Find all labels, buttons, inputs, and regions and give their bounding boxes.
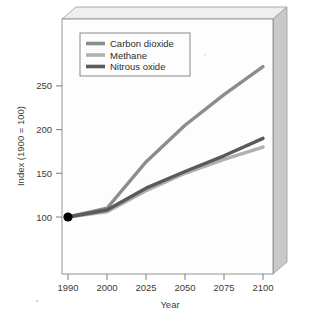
legend-label-carbon-dioxide: Carbon dioxide — [110, 38, 174, 49]
legend-label-nitrous-oxide: Nitrous oxide — [110, 61, 165, 72]
x-tick-label-2075: 2075 — [213, 282, 234, 293]
x-axis-ticks — [68, 274, 263, 280]
frame-top-bevel — [62, 7, 287, 19]
x-axis-title: Year — [160, 299, 179, 310]
y-tick-label-250: 250 — [36, 80, 52, 91]
y-axis-title: Index (1900 = 100) — [15, 106, 26, 186]
y-tick-label-100: 100 — [36, 212, 52, 223]
scan-speck — [36, 300, 38, 302]
origin-marker-dot — [63, 212, 72, 221]
x-tick-label-2025: 2025 — [135, 282, 156, 293]
y-axis-ticks — [56, 86, 62, 217]
line-chart-svg: 100 150 200 250 1990 2000 2025 2050 2075… — [0, 0, 309, 317]
x-tick-label-2000: 2000 — [96, 282, 117, 293]
legend: Carbon dioxide Methane Nitrous oxide — [80, 33, 190, 76]
legend-label-methane: Methane — [110, 50, 147, 61]
x-tick-label-1990: 1990 — [57, 282, 78, 293]
frame-right-bevel — [273, 7, 287, 274]
chart-figure: 100 150 200 250 1990 2000 2025 2050 2075… — [0, 0, 309, 317]
x-tick-label-2050: 2050 — [174, 282, 195, 293]
y-tick-label-150: 150 — [36, 168, 52, 179]
scan-speck — [204, 54, 205, 55]
y-tick-label-200: 200 — [36, 124, 52, 135]
x-tick-label-2100: 2100 — [252, 282, 273, 293]
